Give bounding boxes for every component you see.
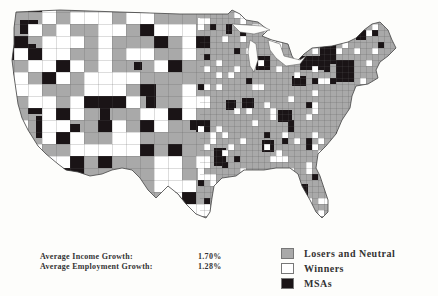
income-growth-value: 1.70% xyxy=(198,252,238,262)
legend-label-msas: MSAs xyxy=(304,278,332,289)
employment-growth-label: Average Employment Growth: xyxy=(40,262,198,272)
income-growth-row: Average Income Growth: 1.70% xyxy=(40,252,238,262)
legend-swatch-losers xyxy=(281,248,294,259)
map-legend: Losers and Neutral Winners MSAs xyxy=(281,246,395,291)
employment-growth-row: Average Employment Growth: 1.28% xyxy=(40,262,238,272)
legend-label-winners: Winners xyxy=(304,263,344,274)
legend-swatch-msas xyxy=(281,278,294,289)
legend-item-msas: MSAs xyxy=(281,276,395,291)
legend-item-winners: Winners xyxy=(281,261,395,276)
growth-stats: Average Income Growth: 1.70% Average Emp… xyxy=(40,252,238,272)
us-county-choropleth-map xyxy=(0,0,438,245)
legend-item-losers: Losers and Neutral xyxy=(281,246,395,261)
legend-swatch-winners xyxy=(281,263,294,274)
legend-label-losers: Losers and Neutral xyxy=(304,248,395,259)
income-growth-label: Average Income Growth: xyxy=(40,252,198,262)
employment-growth-value: 1.28% xyxy=(198,262,238,272)
